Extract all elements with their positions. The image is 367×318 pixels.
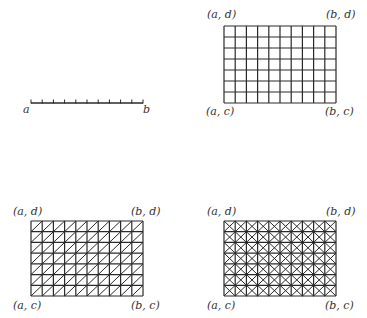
cell-diagonal bbox=[87, 253, 98, 264]
interval-panel bbox=[31, 100, 143, 104]
corner-label: (a, d) bbox=[207, 206, 236, 218]
cell-diagonal bbox=[87, 285, 98, 296]
cell-diagonal bbox=[65, 221, 76, 232]
cell-diagonal bbox=[65, 264, 76, 275]
cell-diagonal bbox=[98, 232, 109, 243]
corner-label: b bbox=[143, 104, 150, 116]
cell-diagonal bbox=[42, 242, 53, 253]
cell-diagonal bbox=[31, 232, 42, 243]
cell-diagonal bbox=[109, 275, 120, 286]
cell-diagonal bbox=[76, 232, 87, 243]
cell-diagonal bbox=[121, 232, 132, 243]
corner-label: (b, c) bbox=[131, 300, 160, 312]
cell-diagonal bbox=[76, 221, 87, 232]
cell-diagonal bbox=[132, 242, 143, 253]
corner-label-text: (a, d) bbox=[13, 205, 42, 218]
cell-diagonal bbox=[76, 253, 87, 264]
cell-diagonal bbox=[109, 264, 120, 275]
cell-diagonal bbox=[121, 285, 132, 296]
cell-diagonal bbox=[53, 285, 64, 296]
cell-diagonal bbox=[109, 242, 120, 253]
cell-diagonal bbox=[87, 232, 98, 243]
cell-diagonal bbox=[109, 253, 120, 264]
cell-diagonal bbox=[98, 264, 109, 275]
cell-diagonal bbox=[87, 221, 98, 232]
cell-diagonal bbox=[65, 232, 76, 243]
cell-diagonal bbox=[53, 275, 64, 286]
cell-diagonal bbox=[42, 275, 53, 286]
cell-diagonal bbox=[65, 285, 76, 296]
corner-label: (b, d) bbox=[131, 206, 161, 218]
corner-label-text: (b, d) bbox=[131, 205, 161, 218]
cell-diagonal bbox=[42, 285, 53, 296]
corner-label: (b, c) bbox=[325, 106, 354, 118]
cell-diagonal bbox=[53, 264, 64, 275]
corner-label: (b, d) bbox=[326, 9, 356, 21]
cell-diagonal bbox=[121, 275, 132, 286]
cell-diagonal bbox=[53, 221, 64, 232]
cell-diagonal bbox=[98, 253, 109, 264]
cell-diagonal bbox=[121, 242, 132, 253]
cell-diagonal bbox=[65, 253, 76, 264]
cell-diagonal bbox=[87, 264, 98, 275]
corner-label-text: (b, c) bbox=[131, 299, 160, 312]
cell-diagonal bbox=[132, 253, 143, 264]
cell-diagonal bbox=[76, 275, 87, 286]
cell-diagonal bbox=[121, 221, 132, 232]
corner-label-text: (b, d) bbox=[326, 205, 356, 218]
corner-label: a bbox=[23, 104, 30, 116]
corner-label-text: (b, d) bbox=[326, 8, 356, 21]
cell-diagonal bbox=[31, 242, 42, 253]
cell-diagonal bbox=[31, 275, 42, 286]
corner-label-text: (a, c) bbox=[13, 299, 41, 312]
cell-diagonal bbox=[53, 232, 64, 243]
cell-diagonal bbox=[53, 242, 64, 253]
cell-diagonal bbox=[87, 275, 98, 286]
cell-diagonal bbox=[98, 285, 109, 296]
cell-diagonal bbox=[65, 275, 76, 286]
cell-diagonal bbox=[53, 253, 64, 264]
cell-diagonal bbox=[42, 232, 53, 243]
cell-diagonal bbox=[31, 253, 42, 264]
corner-label-text: (a, c) bbox=[207, 299, 235, 312]
cross-diagonal-grid-panel bbox=[224, 221, 336, 296]
corner-label-text: a bbox=[23, 103, 30, 116]
corner-label-text: (a, d) bbox=[207, 205, 236, 218]
cell-diagonal bbox=[31, 221, 42, 232]
cell-diagonal bbox=[87, 242, 98, 253]
cell-diagonal bbox=[76, 242, 87, 253]
cell-diagonal bbox=[65, 242, 76, 253]
rectangular-grid-panel bbox=[224, 26, 336, 103]
corner-label-text: (a, d) bbox=[207, 8, 236, 21]
cell-diagonal bbox=[109, 285, 120, 296]
corner-label: (b, d) bbox=[326, 206, 356, 218]
corner-label-text: (b, c) bbox=[325, 299, 354, 312]
cell-diagonal bbox=[98, 275, 109, 286]
cell-diagonal bbox=[42, 253, 53, 264]
cell-diagonal bbox=[132, 232, 143, 243]
corner-label: (a, c) bbox=[206, 106, 234, 118]
cell-diagonal bbox=[42, 221, 53, 232]
corner-label: (a, d) bbox=[13, 206, 42, 218]
cell-diagonal bbox=[121, 253, 132, 264]
corner-label: (b, c) bbox=[325, 300, 354, 312]
cell-diagonal bbox=[76, 264, 87, 275]
corner-label-text: b bbox=[143, 103, 150, 116]
corner-label: (a, c) bbox=[207, 300, 235, 312]
cell-diagonal bbox=[31, 264, 42, 275]
cell-diagonal bbox=[109, 232, 120, 243]
corner-label-text: (b, c) bbox=[325, 105, 354, 118]
cell-diagonal bbox=[42, 264, 53, 275]
cell-diagonal bbox=[109, 221, 120, 232]
corner-label-text: (a, c) bbox=[206, 105, 234, 118]
cell-diagonal bbox=[132, 275, 143, 286]
cell-diagonal bbox=[31, 285, 42, 296]
cell-diagonal bbox=[98, 242, 109, 253]
cell-diagonal bbox=[76, 285, 87, 296]
triangulated-grid-panel bbox=[31, 221, 143, 296]
corner-label: (a, d) bbox=[207, 9, 236, 21]
cell-diagonal bbox=[98, 221, 109, 232]
cell-diagonal bbox=[132, 285, 143, 296]
diagram-canvas bbox=[0, 0, 367, 318]
corner-label: (a, c) bbox=[13, 300, 41, 312]
